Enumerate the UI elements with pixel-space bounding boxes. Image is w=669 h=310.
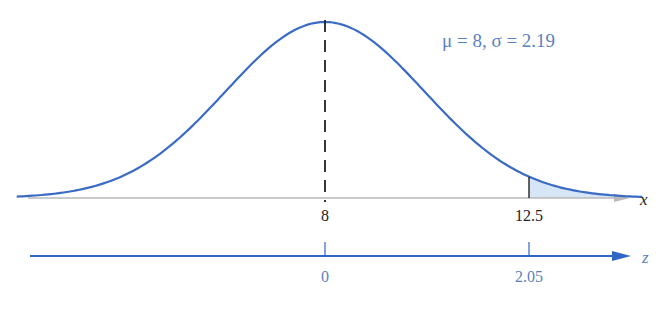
x-tick-label-12-5: 12.5 bbox=[515, 207, 543, 224]
x-axis-label: x bbox=[639, 190, 648, 209]
z-tick-label-0: 0 bbox=[321, 268, 329, 285]
z-tick-label-2-05: 2.05 bbox=[515, 268, 543, 285]
z-axis-label: z bbox=[641, 248, 649, 267]
x-tick-label-8: 8 bbox=[321, 207, 329, 224]
parameters-label: μ = 8, σ = 2.19 bbox=[442, 30, 555, 51]
shaded-tail-region bbox=[529, 177, 642, 198]
normal-distribution-figure: 8 12.5 x 0 2.05 z μ = 8, σ = 2.19 bbox=[0, 0, 669, 310]
z-axis-arrowhead bbox=[612, 251, 631, 261]
